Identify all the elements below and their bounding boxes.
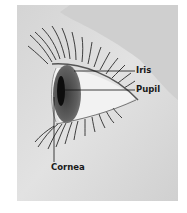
label-cornea: Cornea [51,163,85,172]
label-iris: Iris [136,66,151,75]
eye-illustration [0,0,187,213]
pupil-shape [57,76,65,106]
label-pupil: Pupil [136,85,160,94]
